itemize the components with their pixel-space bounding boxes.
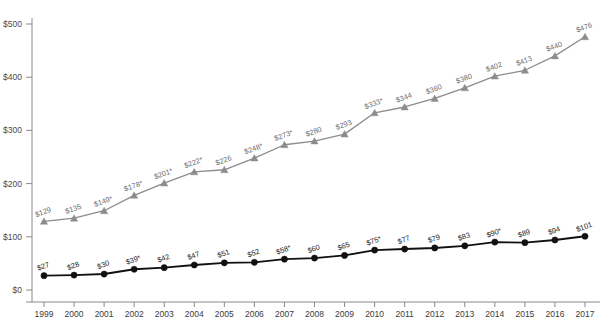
x-axis-tick-label: 2017 <box>576 309 595 319</box>
chart-container: $0$100$200$300$400$500 19992000200120022… <box>0 0 609 332</box>
x-axis-tick-label: 2012 <box>425 309 444 319</box>
x-axis-tick-label: 2001 <box>95 309 114 319</box>
data-point-marker <box>41 273 47 279</box>
x-axis-tick-label: 2000 <box>65 309 84 319</box>
y-axis-tick-label: $300 <box>3 125 22 135</box>
data-point-marker <box>281 256 287 262</box>
x-axis-tick-label: 2016 <box>545 309 564 319</box>
x-axis-tick-label: 2007 <box>275 309 294 319</box>
x-axis-tick-label: 2005 <box>215 309 234 319</box>
y-axis-tick-label: $0 <box>13 285 23 295</box>
data-point-marker <box>221 260 227 266</box>
x-axis-tick-label: 2010 <box>365 309 384 319</box>
data-point-marker <box>191 262 197 268</box>
line-chart: $0$100$200$300$400$500 19992000200120022… <box>0 0 609 332</box>
data-point-marker <box>372 247 378 253</box>
data-point-marker <box>71 272 77 278</box>
y-axis-tick-label: $200 <box>3 179 22 189</box>
x-axis-tick-label: 2013 <box>455 309 474 319</box>
y-axis-tick-label: $500 <box>3 19 22 29</box>
data-point-marker <box>552 237 558 243</box>
data-point-marker <box>582 233 588 239</box>
data-point-marker <box>462 243 468 249</box>
data-point-marker <box>492 239 498 245</box>
x-axis-tick-label: 2003 <box>155 309 174 319</box>
x-axis-tick-label: 2015 <box>515 309 534 319</box>
plot-background <box>0 0 609 332</box>
data-point-marker <box>161 265 167 271</box>
data-point-marker <box>131 266 137 272</box>
x-axis-tick-label: 2004 <box>185 309 204 319</box>
x-axis-tick-label: 2006 <box>245 309 264 319</box>
data-point-marker <box>311 255 317 261</box>
data-point-marker <box>251 259 257 265</box>
x-axis-tick-label: 1999 <box>35 309 54 319</box>
y-axis-tick-label: $100 <box>3 232 22 242</box>
x-axis-tick-label: 2002 <box>125 309 144 319</box>
x-axis-tick-label: 2008 <box>305 309 324 319</box>
x-axis-tick-label: 2009 <box>335 309 354 319</box>
data-point-marker <box>432 245 438 251</box>
data-point-marker <box>101 271 107 277</box>
y-axis-tick-label: $400 <box>3 72 22 82</box>
x-axis-tick-label: 2011 <box>396 309 415 319</box>
data-point-marker <box>402 246 408 252</box>
data-point-marker <box>341 252 347 258</box>
data-point-marker <box>522 240 528 246</box>
x-axis-tick-label: 2014 <box>485 309 504 319</box>
